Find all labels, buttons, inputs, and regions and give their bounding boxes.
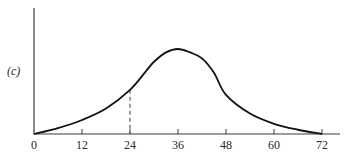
panel-label: (c)	[7, 64, 20, 78]
x-tick-label-24: 24	[124, 138, 136, 152]
chart: 0122436486072 (c)	[0, 0, 349, 160]
x-tick-labels: 0122436486072	[31, 138, 328, 152]
x-tick-label-0: 0	[31, 138, 37, 152]
x-tick-label-36: 36	[172, 138, 184, 152]
x-tick-label-72: 72	[316, 138, 328, 152]
x-ticks	[82, 129, 322, 134]
x-tick-label-12: 12	[76, 138, 88, 152]
axes	[34, 8, 340, 134]
x-tick-label-60: 60	[268, 138, 280, 152]
series-line-curve	[34, 49, 322, 134]
x-tick-label-48: 48	[220, 138, 232, 152]
